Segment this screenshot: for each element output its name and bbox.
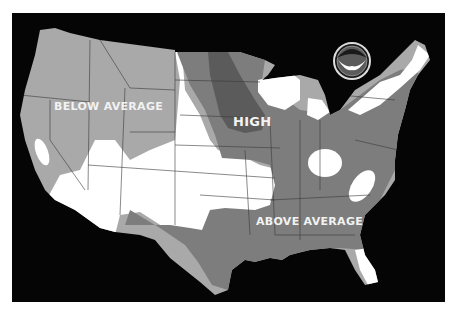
noaa-logo-icon (334, 43, 370, 79)
label-below-average: BELOW AVERAGE (54, 100, 163, 113)
label-above-average: ABOVE AVERAGE (256, 215, 363, 228)
us-map (0, 0, 453, 309)
average-patch-kentucky (308, 149, 342, 177)
label-high: HIGH (233, 114, 271, 129)
us-outline (0, 0, 453, 309)
